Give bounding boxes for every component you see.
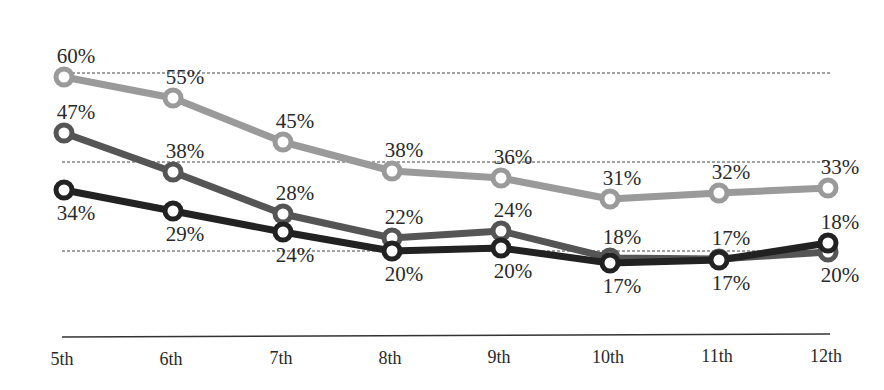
data-label: 34% <box>57 201 96 225</box>
x-tick-label: 11th <box>701 346 732 366</box>
data-point-marker <box>56 125 72 141</box>
data-label: 47% <box>57 100 96 124</box>
x-tick-label: 6th <box>159 349 182 369</box>
x-tick-label: 8th <box>378 348 401 368</box>
data-point-marker <box>165 90 181 106</box>
data-point-marker <box>56 69 72 85</box>
series-1 <box>56 69 836 207</box>
data-point-marker <box>493 240 509 256</box>
data-point-marker <box>602 255 618 271</box>
data-point-marker <box>275 134 291 150</box>
data-label: 55% <box>166 65 205 89</box>
data-point-marker <box>711 185 727 201</box>
data-label: 24% <box>494 198 533 222</box>
data-label: 20% <box>385 262 424 286</box>
data-label: 29% <box>166 222 205 246</box>
data-label: 28% <box>276 181 315 205</box>
data-point-marker <box>711 252 727 268</box>
data-label: 60% <box>57 44 96 68</box>
data-label: 38% <box>385 138 424 162</box>
data-label: 17% <box>712 226 751 250</box>
data-label: 20% <box>494 259 533 283</box>
data-label: 38% <box>166 139 205 163</box>
data-label: 33% <box>821 155 860 179</box>
data-point-marker <box>275 224 291 240</box>
data-point-marker <box>165 164 181 180</box>
x-tick-label: 10th <box>592 347 624 367</box>
data-point-marker <box>275 206 291 222</box>
data-point-marker <box>384 243 400 259</box>
data-label: 22% <box>385 205 424 229</box>
data-point-marker <box>56 182 72 198</box>
line-chart: 60%55%45%38%36%31%32%33%47%38%28%22%24%1… <box>0 0 884 390</box>
data-label: 17% <box>603 274 642 298</box>
data-point-marker <box>493 223 509 239</box>
data-label: 31% <box>603 166 642 190</box>
data-label: 45% <box>276 109 315 133</box>
x-tick-label: 9th <box>487 347 510 367</box>
data-label: 24% <box>276 243 315 267</box>
data-point-marker <box>384 163 400 179</box>
x-tick-label: 7th <box>269 348 292 368</box>
data-point-marker <box>493 170 509 186</box>
data-point-marker <box>820 235 836 251</box>
data-label: 17% <box>712 271 751 295</box>
data-point-marker <box>165 203 181 219</box>
x-axis-line <box>62 334 830 337</box>
x-axis-tick-labels: 5th6th7th8th9th10th11th12th <box>50 346 842 370</box>
data-point-marker <box>820 180 836 196</box>
data-label: 32% <box>712 160 751 184</box>
data-label: 18% <box>603 225 642 249</box>
data-label: 36% <box>494 145 533 169</box>
x-tick-label: 12th <box>810 346 842 366</box>
data-label: 18% <box>821 210 860 234</box>
x-tick-label: 5th <box>50 349 73 369</box>
data-point-marker <box>602 191 618 207</box>
data-label: 20% <box>821 263 860 287</box>
